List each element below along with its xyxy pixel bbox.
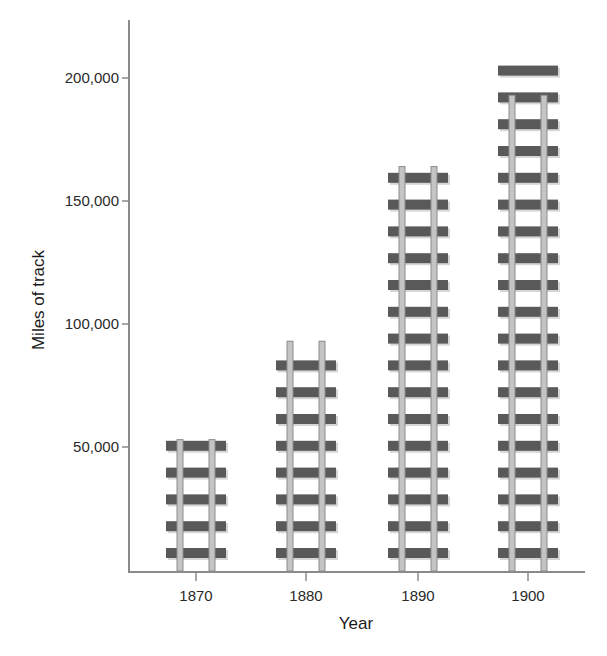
- railroad-tie: [388, 441, 448, 451]
- track-bar-1890: [388, 167, 450, 571]
- railroad-tie: [498, 521, 558, 531]
- rail: [287, 341, 293, 571]
- y-tick-label: 50,000: [73, 438, 119, 455]
- railroad-tie: [388, 468, 448, 478]
- railroad-tie: [276, 387, 336, 397]
- railroad-tie: [388, 253, 448, 263]
- x-axis: 1870188018901900: [128, 572, 585, 604]
- y-tick-label: 200,000: [65, 69, 119, 86]
- railroad-tie: [498, 200, 558, 210]
- railroad-tie: [388, 360, 448, 370]
- x-tick-label: 1890: [401, 587, 434, 604]
- railroad-tie: [276, 548, 336, 558]
- rail: [177, 440, 183, 571]
- railroad-tie: [388, 414, 448, 424]
- railroad-tie: [498, 253, 558, 263]
- railroad-tie: [276, 360, 336, 370]
- railroad-tie: [166, 521, 226, 531]
- railroad-tie: [498, 387, 558, 397]
- railroad-tie: [388, 280, 448, 290]
- railroad-tie: [498, 494, 558, 504]
- y-tick-label: 100,000: [65, 315, 119, 332]
- rail: [319, 341, 325, 571]
- railroad-tie: [166, 548, 226, 558]
- track-bar-1880: [276, 341, 338, 571]
- railroad-tie: [388, 307, 448, 317]
- railroad-tie: [276, 468, 336, 478]
- railroad-tie: [498, 548, 558, 558]
- railroad-tie: [276, 441, 336, 451]
- railroad-tie: [166, 468, 226, 478]
- railroad-tie: [498, 280, 558, 290]
- railroad-tie: [388, 334, 448, 344]
- railroad-tie: [388, 521, 448, 531]
- x-axis-title: Year: [339, 614, 374, 633]
- x-tick-label: 1870: [179, 587, 212, 604]
- railroad-tie: [498, 307, 558, 317]
- rail: [541, 95, 547, 571]
- railroad-tie: [498, 66, 558, 76]
- railroad-tie: [498, 441, 558, 451]
- track-bar-1870: [166, 440, 228, 571]
- railroad-tie: [498, 468, 558, 478]
- railroad-tie: [388, 387, 448, 397]
- railroad-tie: [388, 226, 448, 236]
- railroad-tie: [166, 494, 226, 504]
- railroad-tie: [498, 92, 558, 102]
- railroad-tie: [498, 173, 558, 183]
- y-axis-title: Miles of track: [29, 249, 48, 350]
- railroad-tie: [498, 119, 558, 129]
- railroad-tie: [498, 360, 558, 370]
- x-tick-label: 1900: [511, 587, 544, 604]
- railroad-tie: [276, 494, 336, 504]
- railroad-tie: [166, 441, 226, 451]
- y-axis: 50,000100,000150,000200,000: [65, 20, 129, 573]
- railroad-tie: [388, 548, 448, 558]
- track-bars: [166, 66, 560, 571]
- rail: [399, 167, 405, 571]
- rail: [431, 167, 437, 571]
- rail: [509, 95, 515, 571]
- railroad-tie: [498, 226, 558, 236]
- railroad-tie: [276, 414, 336, 424]
- y-tick-label: 150,000: [65, 192, 119, 209]
- railroad-mileage-chart: 50,000100,000150,000200,000 187018801890…: [0, 0, 607, 656]
- track-bar-1900: [498, 66, 560, 571]
- rail: [209, 440, 215, 571]
- railroad-tie: [498, 414, 558, 424]
- railroad-tie: [388, 173, 448, 183]
- railroad-tie: [388, 200, 448, 210]
- railroad-tie: [498, 334, 558, 344]
- x-tick-label: 1880: [289, 587, 322, 604]
- railroad-tie: [276, 521, 336, 531]
- railroad-tie: [498, 146, 558, 156]
- railroad-tie: [388, 494, 448, 504]
